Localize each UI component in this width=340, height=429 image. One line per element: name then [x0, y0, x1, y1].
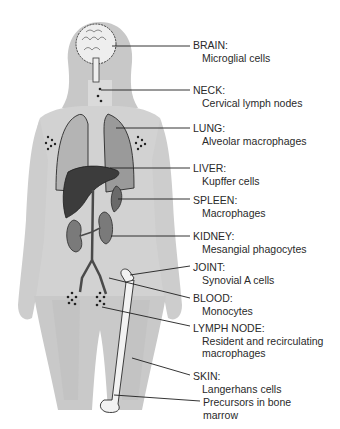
label-liver: LIVER: Kupffer cells	[193, 162, 260, 187]
label-blood: BLOOD: Monocytes	[193, 292, 253, 317]
label-spleen: SPLEEN: Macrophages	[193, 194, 266, 219]
label-subtitle: Microglial cells	[193, 52, 270, 65]
label-title: LIVER:	[193, 162, 260, 175]
label-subtitle: marrow	[203, 409, 291, 422]
label-title: BRAIN:	[193, 39, 270, 52]
label-kidney: KIDNEY: Mesangial phagocytes	[193, 230, 306, 255]
label-subtitle: Mesangial phagocytes	[193, 243, 306, 256]
label-subtitle: macrophages	[193, 347, 323, 360]
label-subtitle: Synovial A cells	[193, 274, 274, 287]
label-title: LUNG:	[193, 122, 306, 135]
label-subtitle: Resident and recirculating	[193, 335, 323, 348]
label-bone-marrow: Precursors in bone marrow	[203, 396, 291, 421]
label-title: BLOOD:	[193, 292, 253, 305]
label-title: KIDNEY:	[193, 230, 306, 243]
label-title: NECK:	[193, 84, 302, 97]
label-skin: SKIN: Langerhans cells	[193, 370, 281, 395]
label-neck: NECK: Cervical lymph nodes	[193, 84, 302, 109]
label-brain: BRAIN: Microglial cells	[193, 39, 270, 64]
label-title: SPLEEN:	[193, 194, 266, 207]
label-lymph-node: LYMPH NODE: Resident and recirculating m…	[193, 322, 323, 360]
label-title: SKIN:	[193, 370, 281, 383]
label-subtitle: Macrophages	[193, 207, 266, 220]
label-lung: LUNG: Alveolar macrophages	[193, 122, 306, 147]
label-subtitle: Monocytes	[193, 305, 253, 318]
label-title: LYMPH NODE:	[193, 322, 323, 335]
mononuclear-phagocyte-body-diagram	[0, 0, 340, 429]
label-subtitle: Langerhans cells	[193, 383, 281, 396]
label-title: JOINT:	[193, 261, 274, 274]
label-subtitle: Cervical lymph nodes	[193, 97, 302, 110]
label-subtitle: Kupffer cells	[193, 175, 260, 188]
label-joint: JOINT: Synovial A cells	[193, 261, 274, 286]
label-subtitle: Precursors in bone	[203, 396, 291, 409]
label-subtitle: Alveolar macrophages	[193, 135, 306, 148]
